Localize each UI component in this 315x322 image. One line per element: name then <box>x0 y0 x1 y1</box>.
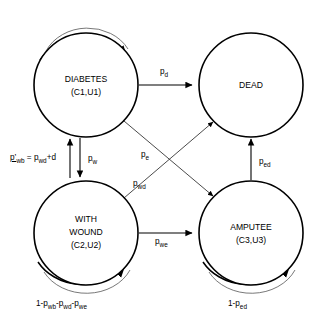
state-label-diabetes-line2: (C1,U1) <box>71 87 101 97</box>
loop-label-with-wound: 1-pwb-pwd-pwe <box>36 300 87 308</box>
edge-label-pw-sub: w <box>93 158 98 165</box>
loop-label-amputee: 1-ped <box>228 300 247 308</box>
formula-lhs: p’wb <box>10 153 25 162</box>
state-node-diabetes[interactable] <box>34 33 138 137</box>
state-label-dead-line1: DEAD <box>239 80 263 90</box>
edge-label-pw: pw <box>88 155 97 163</box>
edge-label-pwe-sub: we <box>160 241 168 248</box>
edge-label-pwe: pwe <box>155 238 168 246</box>
state-label-amputee-line2: (C3,U3) <box>236 235 266 245</box>
formula-rhs-sub: wd <box>38 157 46 164</box>
edge-label-pwd: pwd <box>133 180 146 188</box>
edge-label-pwd-sub: wd <box>138 183 146 190</box>
state-label-amputee-line1: AMPUTEE <box>230 222 272 232</box>
state-label-with-wound-line3: (C2,U2) <box>71 240 101 250</box>
loop-amputee-t1-sub: ed <box>240 303 247 310</box>
edge-label-pd-sub: d <box>165 71 169 78</box>
state-node-amputee[interactable] <box>199 181 303 285</box>
state-label-with-wound-line2: WOUND <box>69 227 102 237</box>
edge-label-ped-sub: ed <box>264 161 271 168</box>
state-label-with-wound-line1: WITH <box>75 214 97 224</box>
edge-label-ped: ped <box>259 158 271 166</box>
loop-wound-t1-sub: wb <box>48 303 56 310</box>
formula-rhs-tail: +d <box>47 153 56 162</box>
edge-label-pe: pe <box>141 151 149 159</box>
formula-operator: = <box>25 153 34 162</box>
loop-wound-t3-sub: we <box>79 303 87 310</box>
formula-lhs-sub: wb <box>16 157 24 164</box>
state-label-diabetes-line1: DIABETES <box>65 74 108 84</box>
edge-label-formula-pwb: p’wb = pwd+d <box>10 154 56 162</box>
state-transition-diagram: DIABETES (C1,U1) DEAD WITH WOUND (C2,U2)… <box>0 0 315 322</box>
edge-label-pd: pd <box>160 68 168 76</box>
edge-label-pe-sub: e <box>146 154 150 161</box>
